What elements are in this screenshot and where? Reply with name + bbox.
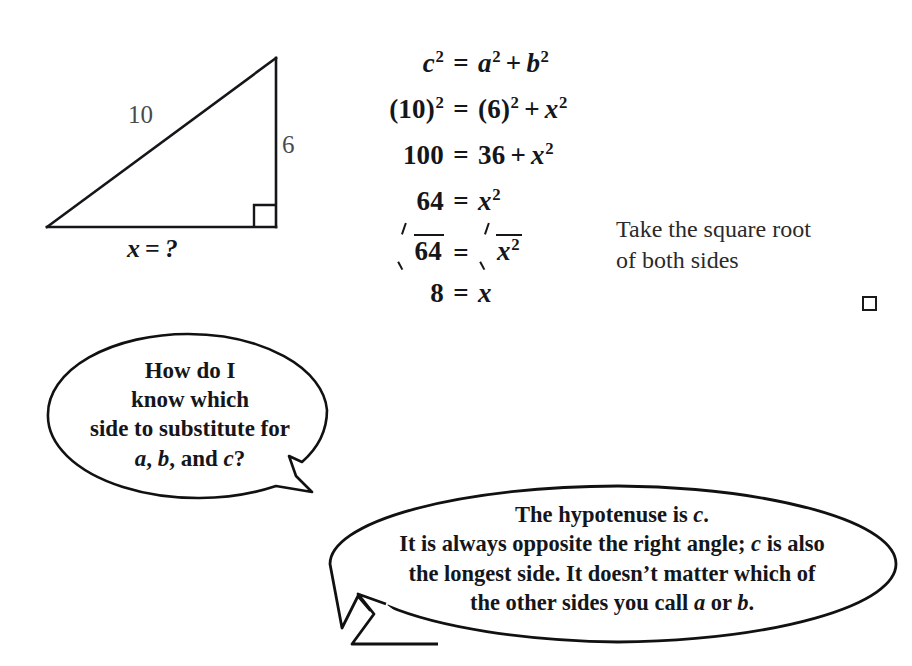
answer-line-3: the longest side. It doesn’t matter whic… [354,559,870,588]
square-root-symbol: x2 [478,234,522,265]
equation-lhs: 100 [352,140,444,171]
equals-sign: = [444,186,478,217]
worksheet-canvas: 10 6 x=? c2 = a2+b2 (10)2 = (6)2+x2 100 … [0,0,912,666]
equation-row-2: (10)2 = (6)2+x2 [352,94,612,140]
right-triangle-figure: 10 6 x=? [30,40,330,270]
annotation-line-2: of both sides [616,245,866,276]
annotation-line-1: Take the square root [616,214,866,245]
equation-row-5: 64 = x2 [352,232,612,278]
equals-sign: = [444,94,478,125]
triangle-hypotenuse-side [47,58,276,227]
base-variable: x [127,234,140,263]
vertical-leg-length-label: 6 [282,132,295,157]
equation-row-1: c2 = a2+b2 [352,48,612,94]
equation-rhs: x2 [478,186,612,217]
question-line-2: know which [54,385,326,414]
end-of-example-square-icon [862,296,877,311]
equals-sign: = [444,48,478,79]
equation-row-6: 8 = x [352,278,612,324]
equation-row-4: 64 = x2 [352,186,612,232]
base-value: ? [165,234,178,263]
question-bubble-text: How do I know which side to substitute f… [54,356,326,473]
radical-tick-icon [478,234,495,264]
equation-rhs: 36+x2 [478,140,612,171]
base-operator: = [140,234,165,263]
equation-row-3: 100 = 36+x2 [352,140,612,186]
base-length-label: x=? [127,236,178,262]
equals-sign: = [444,140,478,171]
equation-derivation: c2 = a2+b2 (10)2 = (6)2+x2 100 = 36+x2 6… [352,48,612,324]
answer-bubble-text: The hypotenuse is c. It is always opposi… [354,500,870,617]
question-line-3: side to substitute for [54,414,326,443]
equation-rhs: x2 [478,232,612,269]
question-line-1: How do I [54,356,326,385]
radical-tick-icon [396,234,413,264]
equation-lhs: c2 [352,48,444,79]
equals-sign: = [444,278,478,309]
equals-sign: = [444,238,478,269]
equation-rhs: a2+b2 [478,48,612,79]
question-line-4: a, b, and c? [54,444,326,473]
equation-lhs: 64 [352,232,444,269]
answer-line-4: the other sides you call a or b. [354,588,870,617]
question-speech-bubble: How do I know which side to substitute f… [40,326,340,506]
equation-rhs: x [478,278,612,309]
equation-lhs: 8 [352,278,444,309]
answer-line-1: The hypotenuse is c. [354,500,870,529]
equation-rhs: (6)2+x2 [478,94,612,125]
square-root-symbol: 64 [396,234,444,265]
answer-speech-bubble: The hypotenuse is c. It is always opposi… [318,478,908,658]
hypotenuse-length-label: 10 [128,102,153,127]
right-angle-marker [254,205,276,227]
equation-lhs: 64 [352,186,444,217]
step-annotation: Take the square root of both sides [616,214,866,275]
equation-lhs: (10)2 [352,94,444,125]
answer-line-2: It is always opposite the right angle; c… [354,529,870,558]
